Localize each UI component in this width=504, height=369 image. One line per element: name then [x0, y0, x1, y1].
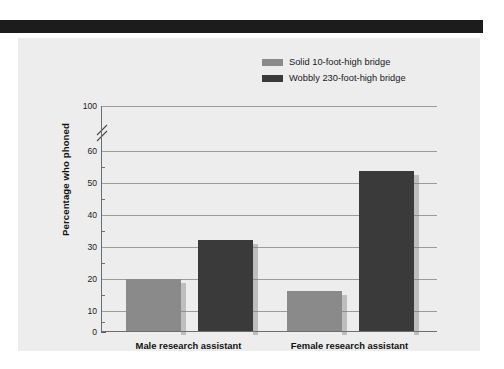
bar-male-solid-bridge [126, 279, 181, 331]
bar-female-wobbly-bridge [359, 171, 414, 331]
bar-male-solid-body [126, 279, 181, 331]
gridline-60 [102, 151, 437, 152]
plot-area [101, 106, 437, 332]
legend-label-solid-bridge: Solid 10-foot-high bridge [289, 57, 390, 68]
bar-female-solid-bridge [287, 291, 342, 331]
chart-legend: Solid 10-foot-high bridge Wobbly 230-foo… [262, 55, 477, 87]
y-tick-label-30: 30 [75, 243, 97, 251]
top-black-banner [0, 20, 483, 33]
legend-swatch-dark-icon [262, 75, 283, 82]
gridline-100 [102, 106, 437, 107]
y-tick-label-50: 50 [75, 179, 97, 187]
x-axis-category-labels: Male research assistant Female research … [101, 340, 437, 356]
bar-male-solid-shadow [181, 283, 186, 335]
bar-male-wobbly-bridge [198, 240, 253, 331]
legend-swatch-light-icon [262, 59, 283, 66]
legend-item-wobbly-bridge: Wobbly 230-foot-high bridge [262, 71, 477, 85]
bar-female-wobbly-body [359, 171, 414, 331]
bar-female-wobbly-shadow [414, 175, 419, 335]
x-label-male-research-assistant: Male research assistant [101, 340, 276, 351]
legend-label-wobbly-bridge: Wobbly 230-foot-high bridge [289, 73, 406, 84]
y-tick-label-60: 60 [75, 147, 97, 155]
bar-male-wobbly-shadow [253, 244, 258, 335]
x-label-female-research-assistant: Female research assistant [262, 340, 437, 351]
y-tick-label-100: 100 [75, 102, 97, 110]
y-tick-label-20: 20 [75, 275, 97, 283]
y-tick-label-40: 40 [75, 211, 97, 219]
y-tick-mark-0 [101, 332, 106, 333]
legend-item-solid-bridge: Solid 10-foot-high bridge [262, 55, 477, 69]
figure-panel: Solid 10-foot-high bridge Wobbly 230-foo… [18, 38, 480, 351]
y-axis-title: Percentage who phoned [60, 105, 71, 255]
bar-female-solid-shadow [342, 295, 347, 335]
y-tick-label-0: 0 [75, 328, 97, 336]
bar-male-wobbly-body [198, 240, 253, 331]
bar-female-solid-body [287, 291, 342, 331]
chart-plot-wrapper: Solid 10-foot-high bridge Wobbly 230-foo… [18, 38, 480, 351]
y-tick-label-10: 10 [75, 307, 97, 315]
